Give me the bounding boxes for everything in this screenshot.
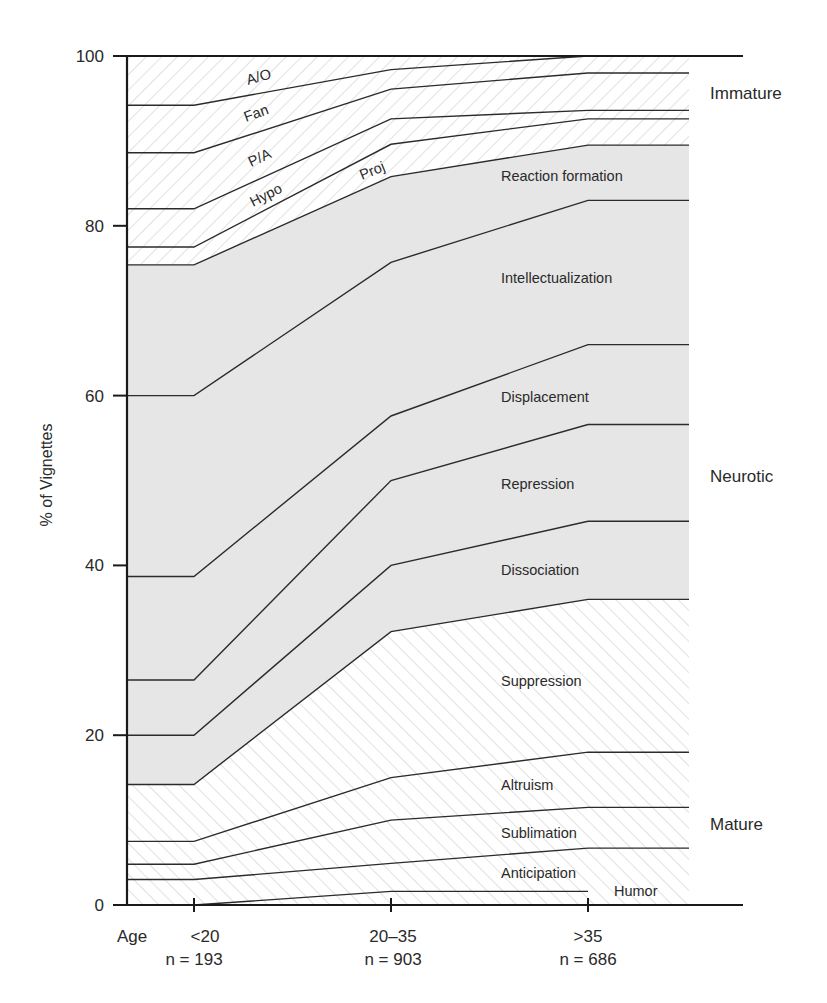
x-n-lt20: n = 193: [165, 950, 222, 969]
y-ticks: 020406080100: [76, 47, 127, 915]
x-tick-lt20: <20: [191, 927, 220, 946]
stacked-area-chart: 020406080100 % of Vignettes Age <20 20–3…: [0, 0, 827, 1003]
area-label-displacement: Displacement: [501, 389, 589, 405]
y-tick-label: 80: [85, 217, 104, 236]
area-label-repression: Repression: [501, 476, 574, 492]
area-label-dissociation: Dissociation: [501, 562, 579, 578]
y-axis-title: % of Vignettes: [38, 424, 55, 527]
x-axis-prefix: Age: [117, 927, 147, 946]
area-label-anticipation: Anticipation: [501, 865, 576, 881]
y-tick-label: 100: [76, 47, 104, 66]
area-label-humor: Humor: [614, 883, 658, 899]
y-tick-label: 20: [85, 726, 104, 745]
x-n-20-35: n = 903: [364, 950, 421, 969]
x-n-gt35: n = 686: [559, 950, 616, 969]
group-label-mature: Mature: [710, 815, 763, 834]
y-tick-label: 60: [85, 387, 104, 406]
group-label-neurotic: Neurotic: [710, 467, 774, 486]
area-label-altruism: Altruism: [501, 777, 553, 793]
area-label-reaction-formation: Reaction formation: [501, 168, 623, 184]
area-label-intellectualization: Intellectualization: [501, 270, 612, 286]
x-tick-20-35: 20–35: [369, 927, 416, 946]
group-label-immature: Immature: [710, 84, 782, 103]
y-tick-label: 0: [95, 896, 104, 915]
area-label-suppression: Suppression: [501, 673, 582, 689]
x-tick-gt35: >35: [574, 927, 603, 946]
area-label-sublimation: Sublimation: [501, 825, 577, 841]
y-tick-label: 40: [85, 556, 104, 575]
